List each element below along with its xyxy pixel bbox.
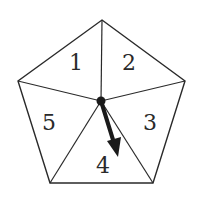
pivot-dot	[97, 97, 106, 106]
divider-line	[18, 81, 101, 101]
spinner-arrow	[101, 101, 121, 157]
spinner-diagram: 1 2 3 4 5	[0, 0, 200, 198]
arrow-shaft	[101, 101, 114, 143]
sector-label-5: 5	[42, 110, 56, 135]
spinner-svg: 1 2 3 4 5	[0, 0, 200, 198]
sector-label-2: 2	[122, 50, 136, 75]
sector-label-1: 1	[69, 50, 83, 75]
sector-label-3: 3	[143, 110, 157, 135]
divider-line	[101, 81, 185, 101]
divider-line	[101, 20, 102, 101]
sector-label-4: 4	[96, 153, 110, 178]
divider-line	[50, 101, 101, 183]
